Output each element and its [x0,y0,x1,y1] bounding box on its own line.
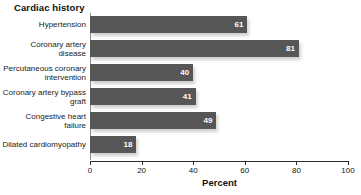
x-tick-label: 20 [137,166,146,175]
bar-fill: 40 [90,64,193,81]
bar: 18 [90,136,136,153]
bar: 41 [90,88,196,105]
bar: 49 [90,112,216,129]
bar-value-label: 81 [286,45,295,53]
x-tick-label: 0 [88,166,92,175]
bar-row: Percutaneous coronary intervention40 [0,64,361,88]
x-tick [348,161,349,165]
bar-value-label: 41 [183,93,192,101]
bar: 61 [90,16,247,33]
x-tick-label: 80 [292,166,301,175]
x-tick-label: 40 [189,166,198,175]
x-tick [142,161,143,165]
bar-row: Congestive heart failure49 [0,112,361,136]
x-tick [245,161,246,165]
x-tick [296,161,297,165]
bar-fill: 18 [90,136,136,153]
category-label: Hypertension [2,16,86,33]
category-label: Coronary artery bypass graft [2,88,86,105]
category-label: Coronary artery disease [2,40,86,57]
x-tick-label: 60 [240,166,249,175]
bar-value-label: 49 [204,117,213,125]
x-axis-line [90,161,349,162]
bar: 81 [90,40,299,57]
bar-row: Coronary artery disease81 [0,40,361,64]
bar-row: Hypertension61 [0,16,361,40]
x-axis-title: Percent [90,177,349,188]
category-label: Congestive heart failure [2,112,86,129]
bar-fill: 41 [90,88,196,105]
bar-row: Coronary artery bypass graft41 [0,88,361,112]
bar: 40 [90,64,193,81]
x-tick-label: 100 [341,166,354,175]
bar-value-label: 40 [180,69,189,77]
category-label: Percutaneous coronary intervention [2,64,86,81]
bar-chart: Cardiac history Hypertension61Coronary a… [0,0,361,195]
x-tick [90,161,91,165]
bar-fill: 61 [90,16,247,33]
bar-fill: 81 [90,40,299,57]
bar-row: Dilated cardiomyopathy18 [0,136,361,160]
x-tick [193,161,194,165]
bar-value-label: 18 [124,141,133,149]
bar-fill: 49 [90,112,216,129]
chart-title: Cardiac history [14,2,85,13]
category-label: Dilated cardiomyopathy [2,136,86,153]
bar-value-label: 61 [234,21,243,29]
